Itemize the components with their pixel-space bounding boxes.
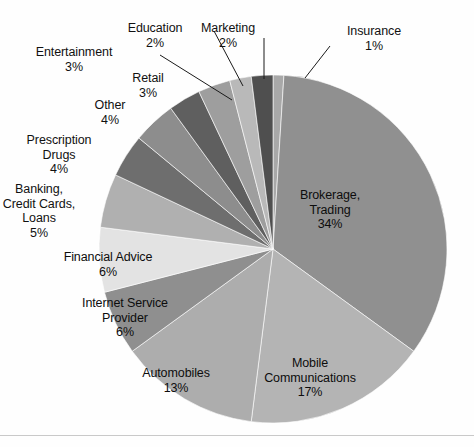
pie-label-text-marketing-1: Marketing [201, 21, 255, 36]
pie-label-percent-retail: 3% [132, 86, 163, 101]
pie-label-percent-marketing: 2% [201, 36, 255, 51]
pie-label-internet-service-provider: Internet ServiceProvider6% [82, 296, 168, 340]
pie-label-text-prescription-drugs-2: Drugs [27, 148, 92, 163]
pie-label-text-mobile-communications-2: Communications [264, 371, 356, 386]
pie-label-percent-brokerage-trading: 34% [300, 217, 360, 232]
pie-label-text-education-1: Education [128, 21, 183, 36]
pie-label-percent-automobiles: 13% [142, 381, 210, 396]
pie-label-text-prescription-drugs-1: Prescription [27, 133, 92, 148]
pie-label-marketing: Marketing2% [201, 21, 255, 50]
chart-page: Insurance1%Brokerage,Trading34%MobileCom… [0, 0, 474, 447]
pie-label-percent-entertainment: 3% [36, 60, 113, 75]
footer-divider [0, 435, 474, 436]
pie-label-mobile-communications: MobileCommunications17% [264, 356, 356, 400]
pie-label-percent-education: 2% [128, 36, 183, 51]
pie-label-insurance: Insurance1% [347, 24, 401, 53]
pie-label-percent-insurance: 1% [347, 39, 401, 54]
pie-label-text-banking-credit-cards-loans-3: Loans [3, 211, 75, 226]
pie-label-percent-other: 4% [95, 113, 126, 128]
pie-label-text-entertainment-1: Entertainment [36, 45, 113, 60]
pie-label-text-internet-service-provider-2: Provider [82, 311, 168, 326]
pie-label-entertainment: Entertainment3% [36, 45, 113, 74]
pie-label-brokerage-trading: Brokerage,Trading34% [300, 188, 360, 232]
pie-label-education: Education2% [128, 21, 183, 50]
pie-label-automobiles: Automobiles13% [142, 366, 210, 395]
pie-label-text-automobiles-1: Automobiles [142, 366, 210, 381]
pie-label-other: Other4% [95, 98, 126, 127]
pie-label-text-insurance-1: Insurance [347, 24, 401, 39]
pie-label-text-banking-credit-cards-loans-2: Credit Cards, [3, 197, 75, 212]
pie-label-text-mobile-communications-1: Mobile [264, 356, 356, 371]
pie-label-percent-mobile-communications: 17% [264, 385, 356, 400]
pie-label-percent-banking-credit-cards-loans: 5% [3, 226, 75, 241]
pie-label-prescription-drugs: PrescriptionDrugs4% [27, 133, 92, 177]
pie-label-retail: Retail3% [132, 71, 163, 100]
pie-label-text-banking-credit-cards-loans-1: Banking, [3, 182, 75, 197]
pie-label-text-other-1: Other [95, 98, 126, 113]
pie-label-text-retail-1: Retail [132, 71, 163, 86]
pie-label-percent-prescription-drugs: 4% [27, 162, 92, 177]
pie-label-text-internet-service-provider-1: Internet Service [82, 296, 168, 311]
pie-label-text-financial-advice-1: Financial Advice [64, 250, 153, 265]
pie-label-percent-internet-service-provider: 6% [82, 325, 168, 340]
pie-label-percent-financial-advice: 6% [64, 265, 153, 280]
pie-label-financial-advice: Financial Advice6% [64, 250, 153, 279]
pie-label-banking-credit-cards-loans: Banking,Credit Cards,Loans5% [3, 182, 75, 240]
leader-line-insurance [305, 46, 330, 78]
pie-label-text-brokerage-trading-2: Trading [300, 203, 360, 218]
pie-label-text-brokerage-trading-1: Brokerage, [300, 188, 360, 203]
